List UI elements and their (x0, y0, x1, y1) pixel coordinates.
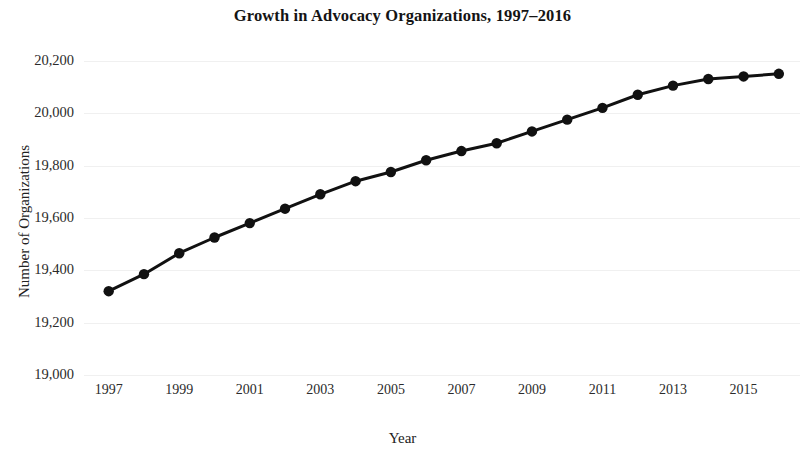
x-tick-label: 2005 (361, 382, 421, 398)
x-tick-label: 2007 (431, 382, 491, 398)
y-tick-label: 19,800 (10, 157, 74, 174)
chart-title: Growth in Advocacy Organizations, 1997–2… (0, 6, 805, 26)
data-point-marker (738, 71, 748, 81)
x-axis-title: Year (0, 430, 805, 447)
x-tick-label: 1999 (149, 382, 209, 398)
x-tick-label: 2011 (573, 382, 633, 398)
data-point-marker (139, 269, 149, 279)
series-line (109, 74, 779, 291)
x-tick-label: 1997 (79, 382, 139, 398)
data-point-marker (668, 80, 678, 90)
plot-area (84, 45, 800, 375)
y-tick-label: 19,400 (10, 261, 74, 278)
x-tick-label: 2001 (220, 382, 280, 398)
data-point-marker (456, 146, 466, 156)
y-tick-label: 19,200 (10, 314, 74, 331)
data-point-marker (174, 248, 184, 258)
data-point-marker (280, 203, 290, 213)
x-axis-tick-labels: 1997199920012003200520072009201120132015 (84, 382, 800, 402)
x-tick-label: 2015 (714, 382, 774, 398)
y-tick-label: 20,200 (10, 52, 74, 69)
data-point-marker (386, 167, 396, 177)
gridline (84, 375, 800, 376)
chart-figure: Growth in Advocacy Organizations, 1997–2… (0, 0, 805, 453)
data-point-marker (103, 286, 113, 296)
data-point-marker (350, 176, 360, 186)
data-point-marker (315, 189, 325, 199)
line-series (84, 45, 800, 375)
x-tick-label: 2009 (502, 382, 562, 398)
y-tick-label: 20,000 (10, 104, 74, 121)
data-point-marker (597, 103, 607, 113)
data-point-marker (562, 114, 572, 124)
data-point-marker (527, 126, 537, 136)
data-point-marker (774, 69, 784, 79)
y-tick-label: 19,000 (10, 366, 74, 383)
x-tick-label: 2003 (290, 382, 350, 398)
data-point-marker (491, 138, 501, 148)
data-point-marker (421, 155, 431, 165)
data-point-marker (209, 232, 219, 242)
x-tick-label: 2013 (643, 382, 703, 398)
data-point-marker (245, 218, 255, 228)
y-tick-label: 19,600 (10, 209, 74, 226)
data-point-marker (703, 74, 713, 84)
data-point-marker (633, 90, 643, 100)
y-axis-tick-labels: 20,20020,00019,80019,60019,40019,20019,0… (8, 45, 74, 375)
